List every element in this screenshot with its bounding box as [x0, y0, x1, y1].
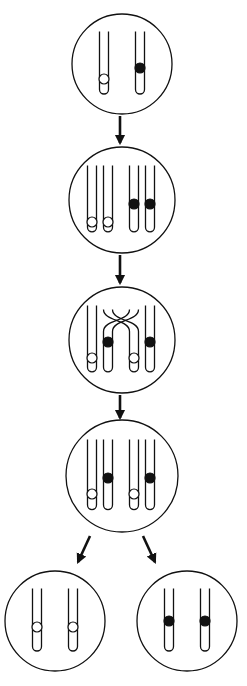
- cell-outline: [137, 571, 237, 671]
- recombinant-chromatids: [66, 420, 178, 532]
- daughter-cell-open: [5, 571, 105, 671]
- crossing-over: [69, 287, 175, 393]
- open-allele-marker: [87, 489, 97, 499]
- filled-allele-marker: [145, 337, 155, 347]
- filled-allele-marker: [145, 473, 155, 483]
- filled-allele-marker: [145, 199, 155, 209]
- open-allele-marker: [32, 622, 42, 632]
- open-allele-marker: [87, 353, 97, 363]
- open-allele-marker: [129, 489, 139, 499]
- open-allele-marker: [87, 217, 97, 227]
- open-allele-marker: [129, 353, 139, 363]
- cell-outline: [66, 420, 178, 532]
- open-allele-marker: [103, 217, 113, 227]
- replicated-chromatids: [69, 147, 175, 253]
- cell-outline: [69, 287, 175, 393]
- filled-allele-marker: [103, 337, 113, 347]
- homologous-chromosomes: [72, 14, 172, 114]
- cell-outline: [5, 571, 105, 671]
- cells: [5, 14, 237, 671]
- arrow-stage-4-to-stage-5a: [78, 536, 90, 562]
- filled-allele-marker: [135, 63, 145, 73]
- filled-allele-marker: [164, 616, 174, 626]
- filled-allele-marker: [103, 473, 113, 483]
- open-allele-marker: [99, 74, 109, 84]
- arrow-stage-4-to-stage-5b: [143, 536, 155, 562]
- filled-allele-marker: [129, 199, 139, 209]
- cell-outline: [72, 14, 172, 114]
- chromatid: [69, 589, 78, 652]
- chromatid: [33, 589, 42, 652]
- filled-allele-marker: [200, 616, 210, 626]
- open-allele-marker: [68, 622, 78, 632]
- chromatid: [100, 32, 109, 95]
- cell-outline: [69, 147, 175, 253]
- meiosis-diagram: [0, 0, 247, 686]
- daughter-cell-filled: [137, 571, 237, 671]
